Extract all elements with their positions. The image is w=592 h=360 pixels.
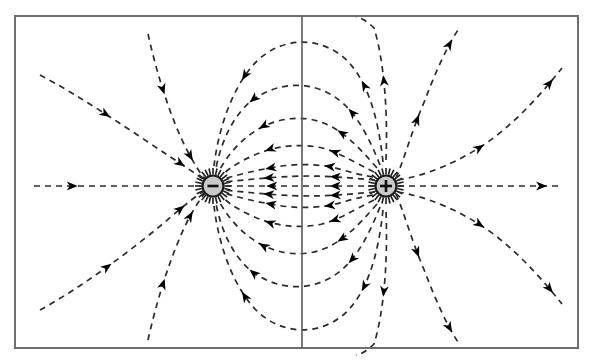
positive-charge-spike: [378, 196, 381, 202]
positive-charge-spike: [397, 182, 403, 183]
negative-charge-spike: [205, 170, 208, 176]
electric-dipole-figure: [0, 0, 592, 360]
positive-charge-spike: [368, 182, 374, 183]
field-line: [356, 212, 387, 355]
positive-charge-spike: [391, 196, 394, 202]
field-arrowhead: [379, 75, 389, 87]
negative-charge-spike: [218, 170, 221, 176]
negative-charge-spike: [205, 196, 208, 202]
field-arrowhead: [324, 201, 336, 211]
negative-charge-spike: [223, 178, 229, 181]
field-line: [224, 190, 375, 196]
field-line-canvas: [0, 0, 592, 360]
field-arrowhead: [358, 79, 371, 93]
field-line: [224, 165, 373, 179]
field-arrowhead: [443, 321, 456, 335]
frame-layer: [15, 16, 578, 348]
field-line: [398, 68, 562, 180]
field-arrowhead: [411, 246, 423, 259]
field-line: [396, 194, 458, 342]
positive-charge-spike: [375, 195, 379, 200]
field-arrowhead: [157, 83, 169, 96]
field-arrowhead: [328, 146, 341, 158]
negative-charge-spike: [216, 197, 217, 203]
field-arrowhead: [184, 149, 197, 163]
negative-charge-spike: [195, 182, 201, 183]
negative-charge-spike: [222, 175, 227, 179]
field-arrowhead: [443, 37, 456, 51]
field-arrowhead: [472, 141, 486, 154]
field-lines-layer: [34, 17, 562, 355]
field-arrowhead: [173, 157, 187, 170]
field-line: [148, 34, 205, 179]
field-arrowhead: [358, 279, 371, 293]
field-line: [219, 201, 377, 254]
positive-charge-spike: [382, 168, 383, 174]
negative-charge-spike: [222, 193, 227, 197]
field-line: [396, 30, 458, 178]
field-line: [216, 204, 380, 287]
field-arrowhead: [411, 113, 423, 126]
field-arrowhead: [257, 119, 271, 132]
field-line: [216, 85, 380, 168]
positive-charge-spike: [368, 189, 374, 190]
field-arrowhead: [257, 240, 271, 253]
positive-charge[interactable]: [376, 176, 397, 197]
positive-charge-spike: [378, 170, 381, 176]
field-line: [224, 176, 375, 182]
negative-charge[interactable]: [203, 176, 224, 197]
field-arrowhead: [335, 232, 349, 245]
positive-charge-spike: [391, 170, 394, 176]
field-line: [356, 17, 387, 160]
field-arrowhead: [379, 285, 389, 297]
field-arrowhead: [183, 209, 196, 223]
negative-charge-spike: [209, 197, 210, 203]
positive-charge-spike: [389, 197, 390, 203]
positive-charge-spike: [375, 172, 379, 177]
field-arrowhead: [247, 92, 261, 106]
negative-charge-spike: [223, 191, 229, 194]
field-arrowhead: [335, 126, 349, 139]
field-arrowhead: [157, 277, 169, 290]
field-arrowhead: [100, 260, 114, 274]
positive-charge-spike: [397, 189, 403, 190]
field-line: [148, 193, 205, 340]
field-line: [224, 193, 373, 207]
field-line: [222, 146, 374, 175]
field-arrowhead: [324, 161, 336, 171]
negative-charge-spike: [209, 168, 210, 174]
negative-charge-spike: [220, 172, 224, 177]
field-arrow-layer: [67, 37, 557, 334]
negative-charge-spike: [216, 168, 217, 174]
field-arrowhead: [247, 266, 261, 280]
field-line: [222, 197, 374, 226]
positive-charge-spike: [382, 197, 383, 203]
negative-charge-spike: [220, 195, 224, 200]
field-line: [398, 192, 562, 304]
negative-charge-spike: [218, 196, 221, 202]
field-arrowhead: [99, 107, 113, 120]
field-arrowhead: [328, 214, 341, 226]
field-arrowhead: [263, 143, 276, 155]
field-arrowhead: [536, 182, 547, 191]
negative-charge-spike: [195, 189, 201, 190]
field-arrowhead: [263, 217, 276, 229]
positive-charge-spike: [389, 168, 390, 174]
negative-charge-spike: [202, 172, 206, 177]
field-line: [219, 118, 377, 171]
field-arrowhead: [472, 218, 486, 231]
figure-border: [15, 16, 578, 348]
